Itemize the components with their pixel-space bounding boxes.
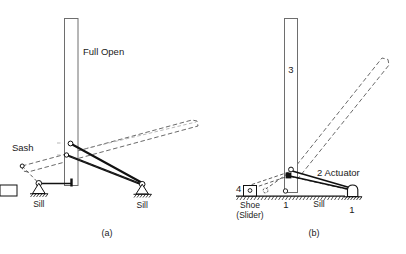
pin-joint-mid-a [64, 153, 68, 157]
shoe-label-line2: (Slider) [236, 210, 264, 220]
pin-joint-upper-b [289, 167, 294, 172]
pin-joint-dashed-hinge-a [20, 164, 24, 168]
fixed-joint-square-b [286, 173, 291, 178]
shoe-pin-b [248, 189, 252, 193]
ground-1-center-label: 1 [283, 199, 288, 210]
sash-foot-body-b [0, 185, 17, 196]
sash-foot-pin-b [283, 189, 287, 193]
link-3-label: 3 [288, 64, 293, 75]
support-right-housing-b [348, 185, 358, 196]
actuator-dashed-left-a [22, 166, 39, 183]
panel-a: Sill Sill Full Open Sash (a) [12, 19, 198, 239]
caption-a: (a) [102, 228, 113, 238]
sash-body-b [285, 19, 298, 193]
sash-dashed-position-b [288, 58, 389, 181]
support-left-a: Sill [30, 181, 48, 210]
sash-dashed-outline-b [288, 58, 389, 181]
sash-full-open-a [65, 19, 79, 186]
ground-1-right-label: 1 [349, 204, 354, 215]
panel-b: 3 2 Actuator 4 Shoe (Slider) 1 Sill 1 (b… [0, 19, 389, 239]
figure-container: Sill Sill Full Open Sash (a) [0, 0, 406, 254]
shoe-slider-b [244, 186, 257, 197]
sill-label-b: Sill [313, 199, 324, 209]
actuator-rod-upper-a [71, 144, 142, 183]
support-left-triangle-a [33, 183, 46, 193]
sash-label: Sash [12, 142, 34, 153]
mechanism-diagram-svg: Sill Sill Full Open Sash (a) [0, 0, 406, 254]
sill-label-left-a: Sill [33, 199, 44, 209]
construction-line-upper-a [80, 122, 196, 150]
support-right-triangle-a [136, 184, 148, 194]
support-right-a: Sill [134, 181, 152, 209]
shoe-label-line1: Shoe [240, 200, 260, 210]
slider-link-dashed-upper-b [246, 172, 289, 187]
full-open-label: Full Open [83, 46, 124, 57]
actuator-dashed-a [22, 155, 141, 184]
intermediate-pin-joint-b [263, 188, 268, 193]
sash-link-3-b [285, 19, 298, 193]
link-4-label: 4 [236, 183, 241, 194]
pin-joint-upper-a [68, 141, 73, 146]
sill-label-right-a: Sill [137, 200, 148, 210]
caption-b: (b) [309, 228, 320, 238]
sash-body-a [65, 19, 79, 186]
link-2-actuator-label: 2 Actuator [317, 167, 360, 178]
